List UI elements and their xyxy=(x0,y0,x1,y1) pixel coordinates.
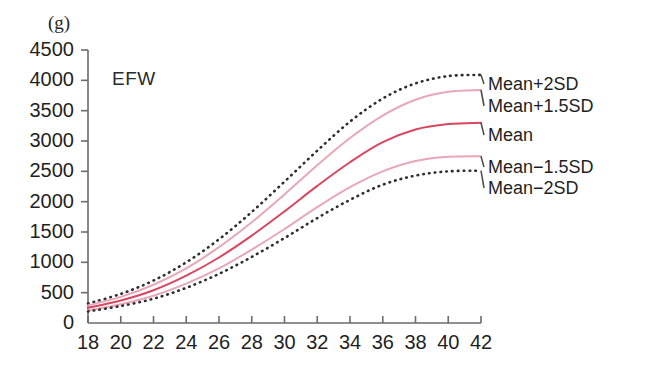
legend-label-4: Mean−2SD xyxy=(488,179,579,197)
curve-series-4 xyxy=(88,171,481,312)
curve-series-0 xyxy=(88,75,481,304)
efw-growth-chart: (g) EFW 05001000150020002500300035004000… xyxy=(0,0,645,373)
legend-leader-line xyxy=(481,123,484,135)
legend-label-1: Mean+1.5SD xyxy=(488,97,594,115)
x-axis-ticks xyxy=(88,316,481,323)
legend-leader-lines xyxy=(481,75,484,188)
y-axis-tick-label: 0 xyxy=(4,312,74,332)
legend-leader-line xyxy=(481,90,484,106)
legend-label-2: Mean xyxy=(488,126,533,144)
legend-label-3: Mean−1.5SD xyxy=(488,158,594,176)
y-axis-tick-label: 3500 xyxy=(4,100,74,120)
curve-series-2 xyxy=(88,123,481,308)
y-axis-tick-label: 4000 xyxy=(4,69,74,89)
data-curves xyxy=(88,75,481,312)
legend-leader-line xyxy=(481,75,484,84)
y-axis-ticks xyxy=(81,50,88,293)
y-axis-tick-label: 500 xyxy=(4,282,74,302)
y-axis-tick-label: 2000 xyxy=(4,191,74,211)
y-axis-tick-label: 1000 xyxy=(4,251,74,271)
y-axis-tick-label: 1500 xyxy=(4,221,74,241)
legend-leader-line xyxy=(481,156,484,167)
legend-label-0: Mean+2SD xyxy=(488,75,579,93)
y-axis-tick-label: 3000 xyxy=(4,130,74,150)
x-axis-tick-label: 42 xyxy=(461,332,501,352)
legend-leader-line xyxy=(481,171,484,188)
curve-series-1 xyxy=(88,90,481,305)
axis-lines xyxy=(88,50,481,323)
y-axis-tick-label: 2500 xyxy=(4,160,74,180)
y-axis-tick-label: 4500 xyxy=(4,39,74,59)
